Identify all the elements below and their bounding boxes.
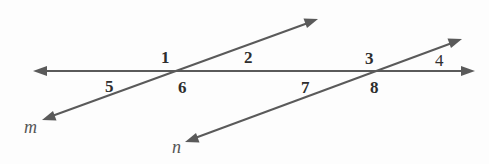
angle-label-4: 4	[435, 51, 444, 70]
arrowhead-m-upper-icon	[304, 19, 319, 29]
line-n	[185, 39, 462, 143]
angle-label-2: 2	[244, 48, 253, 67]
angle-label-6: 6	[178, 78, 187, 97]
angle-label-8: 8	[370, 78, 379, 97]
arrowhead-n-upper-icon	[448, 39, 463, 49]
line-label-n: n	[172, 137, 181, 157]
angle-label-5: 5	[105, 77, 114, 96]
horizontal-line	[33, 66, 475, 76]
arrowhead-n-lower-icon	[185, 133, 200, 143]
arrowhead-right-icon	[461, 66, 475, 76]
line-label-m: m	[24, 117, 37, 137]
angle-label-1: 1	[161, 48, 170, 67]
arrowhead-left-icon	[33, 66, 47, 76]
line-m	[42, 19, 318, 121]
parallel-lines-diagram: 1 2 5 6 3 4 7 8 m n	[0, 0, 489, 164]
angle-label-3: 3	[365, 49, 374, 68]
angle-label-7: 7	[301, 78, 310, 97]
arrowhead-m-lower-icon	[42, 111, 57, 121]
diagram-svg: 1 2 5 6 3 4 7 8 m n	[0, 0, 489, 164]
